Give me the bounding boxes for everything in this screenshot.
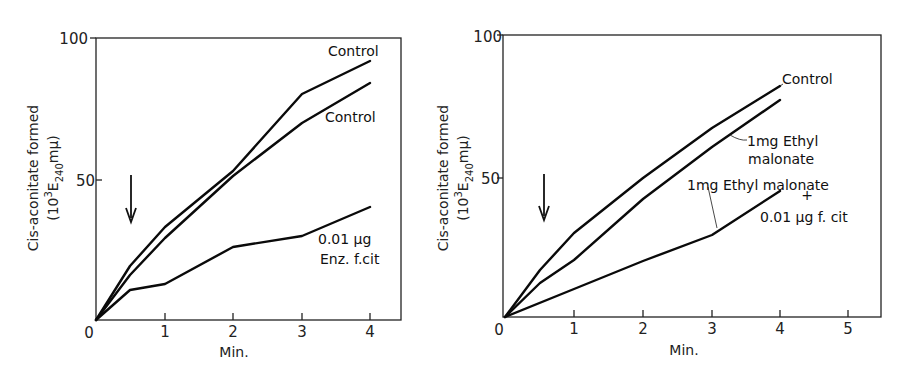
left-y-label-100: 100 bbox=[59, 30, 88, 48]
svg-text:(103E240mµ): (103E240mµ) bbox=[43, 135, 65, 221]
right-label-ethyl-line1: 1mg Ethyl bbox=[747, 133, 818, 149]
right-addition-arrow-icon bbox=[539, 174, 549, 220]
right-x-label-4: 4 bbox=[775, 320, 785, 338]
left-x-label-3: 3 bbox=[297, 323, 307, 341]
left-x-axis-title: Min. bbox=[219, 344, 248, 360]
right-label-ethyl-line2: malonate bbox=[748, 151, 814, 167]
right-x-label-3: 3 bbox=[707, 320, 717, 338]
right-y-axis-title: Cis-aconitate formed (103E240mµ) bbox=[435, 105, 475, 251]
left-label-enzyme-line1: 0.01 µg bbox=[318, 231, 371, 247]
left-label-enzyme-line2: Enz. f.cit bbox=[320, 251, 380, 267]
right-y-label-100: 100 bbox=[473, 28, 502, 46]
left-x-label-1: 1 bbox=[160, 323, 170, 341]
left-x-label-4: 4 bbox=[365, 323, 375, 341]
right-x-axis-title: Min. bbox=[669, 342, 698, 358]
right-x-label-2: 2 bbox=[638, 320, 648, 338]
right-y-label-50: 50 bbox=[481, 170, 500, 188]
right-x-label-5: 5 bbox=[843, 320, 853, 338]
right-x-label-1: 1 bbox=[569, 320, 579, 338]
left-plot-frame bbox=[96, 38, 401, 320]
left-label-control-lower: Control bbox=[325, 109, 376, 125]
left-label-control-upper: Control bbox=[328, 43, 379, 59]
right-label-control: Control bbox=[782, 71, 833, 87]
left-y-label-0: 0 bbox=[84, 324, 94, 342]
svg-text:Cis-aconitate formed: Cis-aconitate formed bbox=[435, 105, 451, 251]
left-x-label-2: 2 bbox=[228, 323, 238, 341]
svg-text:Cis-aconitate formed: Cis-aconitate formed bbox=[25, 105, 41, 251]
left-addition-arrow-icon bbox=[126, 175, 136, 222]
left-y-axis-title: Cis-aconitate formed (103E240mµ) bbox=[25, 105, 65, 251]
left-chart: 100 50 0 1 2 3 4 Min. Cis-aconitate form… bbox=[25, 30, 401, 360]
right-leader-ethyl bbox=[730, 135, 747, 140]
figure: 100 50 0 1 2 3 4 Min. Cis-aconitate form… bbox=[0, 0, 905, 373]
right-label-combo-line2: 0.01 µg f. cit bbox=[760, 209, 848, 225]
svg-text:(103E240mµ): (103E240mµ) bbox=[453, 135, 475, 221]
right-series-ethyl-malonate bbox=[505, 100, 780, 317]
right-series-ethyl-malonate-fcit bbox=[505, 191, 780, 317]
right-series-control bbox=[505, 86, 780, 317]
right-chart: 100 50 0 1 2 3 4 5 Min. Cis-aconitate fo… bbox=[435, 28, 881, 358]
right-y-label-0: 0 bbox=[494, 321, 504, 339]
right-leader-combo bbox=[708, 187, 717, 228]
left-y-label-50: 50 bbox=[76, 172, 95, 190]
right-label-combo-plus: + bbox=[801, 187, 813, 203]
left-series-control-upper bbox=[96, 61, 370, 320]
